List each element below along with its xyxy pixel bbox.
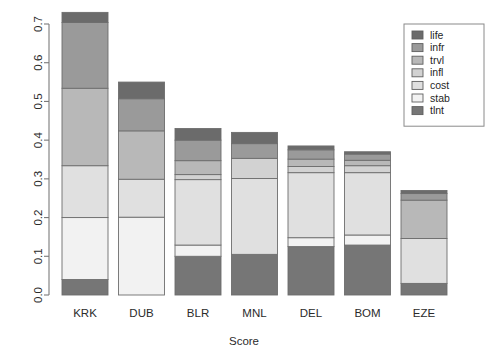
y-tick-label: 0.5	[32, 93, 44, 109]
y-tick-label: 0.1	[32, 248, 44, 264]
bar-segment-blr-infr	[175, 140, 221, 161]
bar-segment-del-infl	[288, 166, 334, 172]
legend-swatch-life	[412, 31, 423, 39]
x-axis-title: Score	[229, 335, 259, 347]
bar-segment-mnl-tlnt	[232, 254, 278, 295]
bar-segment-bom-infl	[345, 166, 391, 173]
x-tick-label-bom: BOM	[354, 307, 380, 319]
y-tick-label: 0.7	[32, 16, 44, 32]
bar-segment-blr-tlnt	[175, 256, 221, 295]
x-tick-label-blr: BLR	[187, 307, 209, 319]
bar-segment-mnl-infl	[232, 158, 278, 178]
bar-segment-del-infr	[288, 150, 334, 159]
legend-label-life: life	[430, 29, 444, 41]
x-tick-label-mnl: MNL	[242, 307, 267, 319]
legend-swatch-cost	[412, 81, 423, 89]
bar-segment-krk-infr	[62, 22, 108, 88]
bar-segment-bom-tlnt	[345, 245, 391, 295]
bar-krk	[62, 12, 108, 295]
bar-segment-mnl-cost	[232, 178, 278, 254]
bar-segment-krk-tlnt	[62, 280, 108, 295]
bar-bom	[345, 152, 391, 295]
bar-segment-krk-stab	[62, 218, 108, 280]
x-tick-label-eze: EZE	[413, 307, 436, 319]
bar-segment-blr-trvl	[175, 161, 221, 175]
bar-segment-del-trvl	[288, 159, 334, 166]
y-tick-label: 0.2	[32, 210, 44, 226]
bar-segment-dub-infr	[119, 99, 165, 131]
y-tick-label: 0.3	[32, 171, 44, 187]
bar-segment-bom-infr	[345, 154, 391, 160]
bar-segment-eze-trvl	[401, 200, 447, 238]
bar-segment-mnl-life	[232, 132, 278, 143]
bar-segment-dub-trvl	[119, 131, 165, 179]
bar-segment-eze-life	[401, 190, 447, 193]
bar-eze	[401, 190, 447, 295]
bar-del	[288, 146, 334, 295]
bar-segment-krk-cost	[62, 166, 108, 218]
legend-swatch-infl	[412, 69, 423, 77]
bar-segment-eze-infr	[401, 194, 447, 201]
y-tick-label: 0.4	[32, 132, 44, 149]
bar-blr	[175, 129, 221, 295]
legend-swatch-tlnt	[412, 107, 423, 115]
bar-segment-blr-cost	[175, 180, 221, 245]
bar-segment-bom-cost	[345, 173, 391, 235]
bar-segment-dub-life	[119, 82, 165, 99]
bar-segment-blr-life	[175, 129, 221, 141]
x-tick-label-del: DEL	[300, 307, 323, 319]
bar-segment-blr-stab	[175, 245, 221, 256]
bar-segment-bom-trvl	[345, 160, 391, 165]
legend-swatch-stab	[412, 94, 423, 102]
x-tick-label-krk: KRK	[73, 307, 97, 319]
bar-segment-del-tlnt	[288, 247, 334, 295]
bar-segment-dub-cost	[119, 179, 165, 217]
bar-segment-mnl-infr	[232, 144, 278, 159]
y-tick-label: 0.0	[32, 287, 44, 303]
bar-segment-krk-life	[62, 12, 108, 22]
bar-segment-blr-infl	[175, 175, 221, 180]
bar-segment-krk-trvl	[62, 88, 108, 165]
legend-label-infl: infl	[430, 66, 443, 78]
chart-legend: lifeinfrtrvlinflcoststabtlnt	[404, 24, 484, 126]
legend-label-tlnt: tlnt	[430, 104, 444, 116]
bar-segment-del-stab	[288, 238, 334, 247]
bar-segment-bom-stab	[345, 235, 391, 245]
bar-segment-eze-tlnt	[401, 283, 447, 295]
bar-segment-dub-stab	[119, 217, 165, 295]
bar-mnl	[232, 132, 278, 295]
bar-segment-bom-life	[345, 152, 391, 154]
bar-segment-del-life	[288, 146, 334, 150]
bar-dub	[119, 82, 165, 295]
legend-swatch-infr	[412, 44, 423, 52]
legend-label-trvl: trvl	[430, 54, 444, 66]
legend-label-cost: cost	[430, 79, 449, 91]
stacked-bar-chart: 0.00.10.20.30.40.50.60.7 KRKDUBBLRMNLDEL…	[0, 0, 489, 357]
legend-label-infr: infr	[430, 41, 445, 53]
legend-label-stab: stab	[430, 92, 450, 104]
bar-segment-del-cost	[288, 173, 334, 238]
legend-swatch-trvl	[412, 56, 423, 64]
y-tick-label: 0.6	[32, 55, 44, 71]
x-tick-label-dub: DUB	[129, 307, 154, 319]
chart-canvas: 0.00.10.20.30.40.50.60.7 KRKDUBBLRMNLDEL…	[0, 0, 489, 357]
bar-segment-eze-cost	[401, 238, 447, 283]
